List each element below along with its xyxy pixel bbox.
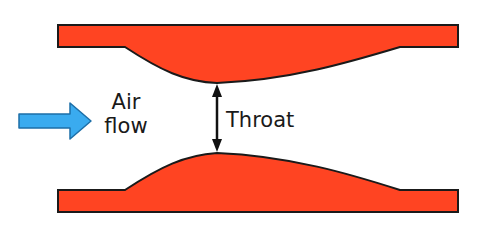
throat-dimension-arrow-icon: [212, 84, 222, 152]
air-flow-label-line1: Air: [98, 90, 154, 114]
top-wall: [58, 25, 458, 83]
air-flow-label: Air flow: [98, 90, 154, 138]
throat-label: Throat: [226, 108, 294, 132]
bottom-wall: [58, 153, 458, 212]
air-flow-arrow-icon: [19, 103, 91, 139]
air-flow-label-line2: flow: [98, 114, 154, 138]
